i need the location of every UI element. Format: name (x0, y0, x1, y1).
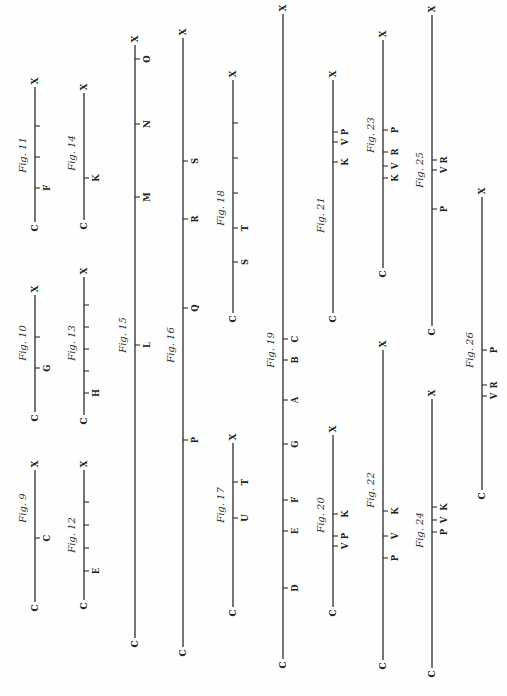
figure-caption: Fig. 13 (66, 325, 77, 362)
figure-caption: Fig. 16 (165, 327, 176, 364)
point-label: S (240, 259, 250, 265)
figure-caption: Fig. 18 (215, 190, 226, 227)
point-label: R (489, 381, 499, 389)
end-label-x: X (79, 83, 89, 90)
end-label-x: X (427, 389, 437, 396)
point-label: R (390, 148, 400, 156)
end-label-x: X (228, 433, 238, 440)
point-label: T (240, 478, 250, 485)
point-label: V (340, 542, 350, 550)
point-label: E (91, 567, 101, 574)
end-label-x: X (328, 425, 338, 432)
start-label-c: C (30, 604, 40, 611)
point-label: P (390, 554, 400, 561)
figure-caption: Fig. 20 (315, 497, 326, 534)
point-label: P (390, 126, 400, 133)
figure-caption: Fig. 10 (17, 325, 28, 362)
point-label: D (290, 584, 300, 592)
point-label: R (190, 215, 200, 223)
point-label: H (91, 389, 101, 397)
point-label: G (290, 440, 300, 447)
start-label-c: C (427, 328, 437, 335)
figure-caption: Fig. 22 (365, 472, 376, 509)
point-label: S (190, 158, 200, 164)
end-label-x: X (427, 5, 437, 12)
figure-fig9: XCCFig. 9 (17, 460, 53, 611)
point-label: P (439, 205, 449, 212)
start-label-c: C (30, 414, 40, 421)
point-label: Q (190, 304, 200, 312)
figure-caption: Fig. 23 (365, 117, 376, 154)
point-label: K (390, 174, 400, 182)
figure-fig17: XCTUFig. 17 (215, 433, 251, 616)
end-label-x: X (228, 70, 238, 77)
point-label: V (340, 138, 350, 146)
figure-caption: Fig. 21 (315, 197, 326, 234)
point-label: R (439, 156, 449, 164)
figure-fig26: XCPRVFig. 26 (464, 187, 500, 499)
point-label: U (240, 514, 250, 522)
figure-caption: Fig. 9 (17, 493, 28, 524)
start-label-c: C (30, 224, 40, 231)
point-label: N (142, 120, 152, 128)
point-label: G (42, 364, 52, 371)
start-label-c: C (228, 315, 238, 322)
end-label-x: X (79, 460, 89, 467)
start-label-c: C (378, 270, 388, 277)
figure-caption: Fig. 11 (17, 137, 28, 174)
point-label: V (390, 532, 400, 540)
point-label: K (390, 507, 400, 515)
point-label: K (439, 503, 449, 511)
end-label-x: X (79, 267, 89, 274)
figure-fig19: XCCBAGFEDFig. 19 (265, 4, 301, 668)
point-label: K (91, 174, 101, 182)
point-label: L (142, 342, 152, 348)
start-label-c: C (427, 670, 437, 677)
figure-fig24: XCKVPFig. 24 (414, 389, 450, 677)
figure-caption: Fig. 14 (66, 135, 77, 172)
start-label-c: C (328, 315, 338, 322)
start-label-c: C (79, 222, 89, 229)
end-label-x: X (130, 35, 140, 42)
start-label-c: C (79, 417, 89, 424)
figure-fig18: XCTSFig. 18 (215, 70, 251, 322)
point-label: T (240, 224, 250, 231)
figure-fig15: XCONMLFig. 15 (117, 35, 153, 647)
figure-caption: Fig. 12 (66, 517, 77, 554)
point-label: B (290, 356, 300, 363)
figure-fig11: XCFFig. 11 (17, 77, 53, 231)
point-label: M (142, 192, 152, 202)
end-label-x: X (378, 30, 388, 37)
end-label-x: X (278, 4, 288, 11)
figure-caption: Fig. 26 (464, 332, 475, 369)
end-label-x: X (477, 187, 487, 194)
figure-fig16: XCSRQPFig. 16 (165, 28, 201, 656)
figure-fig21: XCPVKFig. 21 (315, 70, 351, 322)
figure-caption: Fig. 17 (215, 487, 226, 524)
end-label-x: X (30, 285, 40, 292)
figure-fig23: XCPRVKFig. 23 (365, 30, 401, 277)
start-label-c: C (278, 661, 288, 668)
figure-fig13: XCHFig. 13 (66, 267, 102, 424)
end-label-x: X (328, 70, 338, 77)
point-label: V (439, 166, 449, 174)
end-label-x: X (178, 28, 188, 35)
figure-caption: Fig. 15 (117, 317, 128, 354)
figure-fig22: XCKVPFig. 22 (365, 340, 401, 669)
point-label: C (290, 335, 300, 342)
point-label: O (142, 55, 152, 63)
point-label: E (290, 527, 300, 534)
point-label: A (290, 396, 300, 404)
end-label-x: X (30, 77, 40, 84)
figure-fig25: XCRVPFig. 25 (414, 5, 450, 335)
start-label-c: C (378, 662, 388, 669)
figure-caption: Fig. 24 (414, 512, 425, 549)
point-label: K (340, 158, 350, 166)
start-label-c: C (228, 609, 238, 616)
point-label: P (340, 128, 350, 135)
figures-canvas: XCCFig. 9XCGFig. 10XCFFig. 11XCEFig. 12X… (0, 0, 507, 696)
point-label: P (489, 346, 499, 353)
end-label-x: X (378, 340, 388, 347)
figure-fig20: XCKPVFig. 20 (315, 425, 351, 616)
point-label: K (340, 510, 350, 518)
